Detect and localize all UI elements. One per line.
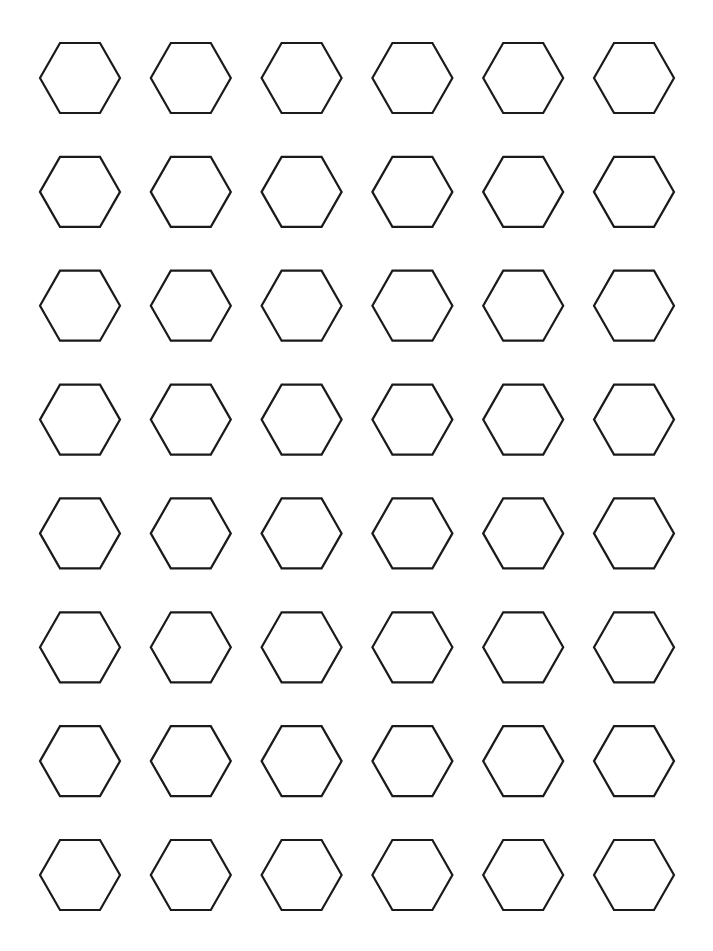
hexagon-icon [594, 157, 674, 227]
hexagon-icon [40, 157, 120, 227]
hexagon-icon [372, 498, 452, 568]
hexagon-icon [40, 612, 120, 682]
hexagon-icon [372, 43, 452, 113]
hexagon-icon [372, 840, 452, 910]
hexagon-icon [483, 43, 563, 113]
hexagon-icon [40, 271, 120, 341]
hexagon-icon [40, 498, 120, 568]
hexagon-icon [483, 840, 563, 910]
hexagon-icon [262, 157, 342, 227]
hexagon-icon [151, 271, 231, 341]
hexagon-icon [483, 498, 563, 568]
hexagon-icon [594, 498, 674, 568]
hexagon-icon [40, 840, 120, 910]
hexagon-icon [483, 157, 563, 227]
hexagon-icon [262, 43, 342, 113]
hexagon-icon [594, 612, 674, 682]
hexagon-icon [483, 726, 563, 796]
hexagon-icon [372, 271, 452, 341]
hexagon-icon [594, 43, 674, 113]
hexagon-icon [594, 271, 674, 341]
hexagon-icon [151, 43, 231, 113]
hexagon-icon [40, 43, 120, 113]
hexagon-icon [262, 612, 342, 682]
hexagon-icon [372, 157, 452, 227]
hexagon-icon [40, 385, 120, 455]
hexagon-grid [0, 0, 713, 951]
hexagon-icon [151, 840, 231, 910]
hexagon-icon [151, 498, 231, 568]
hexagon-icon [262, 726, 342, 796]
hexagon-icon [151, 385, 231, 455]
hexagon-icon [262, 498, 342, 568]
hexagon-icon [372, 726, 452, 796]
hexagon-icon [151, 157, 231, 227]
hexagon-icon [372, 385, 452, 455]
hexagon-icon [262, 840, 342, 910]
hexagon-icon [594, 385, 674, 455]
hexagon-icon [483, 385, 563, 455]
hexagon-icon [372, 612, 452, 682]
hexagon-icon [151, 726, 231, 796]
hexagon-icon [594, 840, 674, 910]
hexagon-icon [151, 612, 231, 682]
hexagon-icon [262, 271, 342, 341]
hexagon-icon [262, 385, 342, 455]
hexagon-icon [40, 726, 120, 796]
hexagon-icon [594, 726, 674, 796]
hexagon-icon [483, 271, 563, 341]
hexagon-icon [483, 612, 563, 682]
